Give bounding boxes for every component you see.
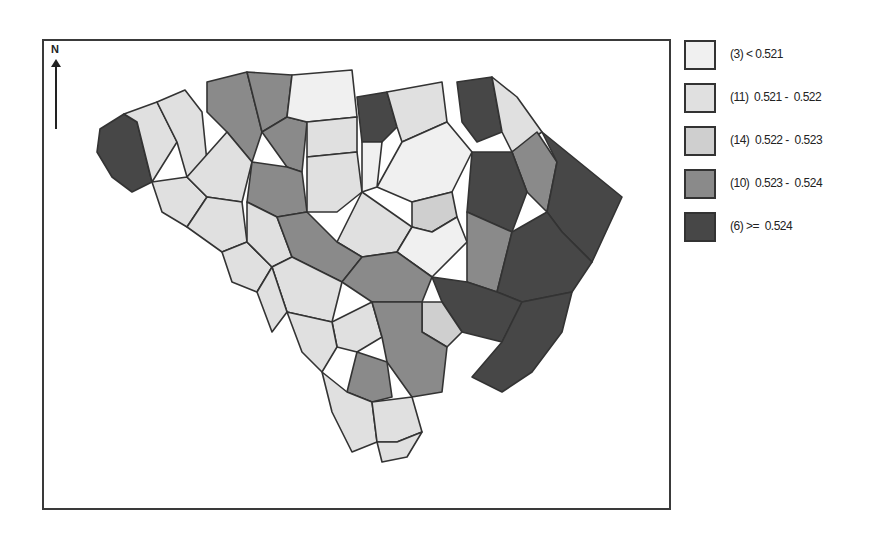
north-label: N (51, 43, 59, 55)
north-arrow: N (50, 43, 66, 163)
county-polygon (377, 122, 472, 202)
legend-swatch (684, 212, 716, 242)
legend-item-class-5: (6) >= 0.524 (684, 212, 874, 255)
legend-swatch (684, 169, 716, 199)
county-polygon (307, 152, 362, 212)
county-polygon (287, 70, 357, 122)
legend-label: (11) 0.521 - 0.522 (730, 90, 821, 104)
legend-swatch (684, 126, 716, 156)
legend-label: (6) >= 0.524 (730, 219, 792, 233)
legend: (3) < 0.521 (11) 0.521 - 0.522 (14) 0.52… (684, 40, 874, 255)
map-frame (42, 39, 671, 510)
legend-label: (10) 0.523 - 0.524 (730, 176, 822, 190)
legend-item-class-4: (10) 0.523 - 0.524 (684, 169, 874, 212)
county-map (44, 41, 673, 512)
legend-item-class-1: (3) < 0.521 (684, 40, 874, 83)
county-polygon (287, 312, 337, 372)
legend-label: (3) < 0.521 (730, 47, 783, 61)
legend-swatch (684, 83, 716, 113)
county-polygon (307, 117, 357, 157)
legend-label: (14) 0.522 - 0.523 (730, 133, 822, 147)
legend-item-class-3: (14) 0.522 - 0.523 (684, 126, 874, 169)
legend-item-class-2: (11) 0.521 - 0.522 (684, 83, 874, 126)
north-arrow-shaft (55, 65, 57, 129)
legend-swatch (684, 40, 716, 70)
